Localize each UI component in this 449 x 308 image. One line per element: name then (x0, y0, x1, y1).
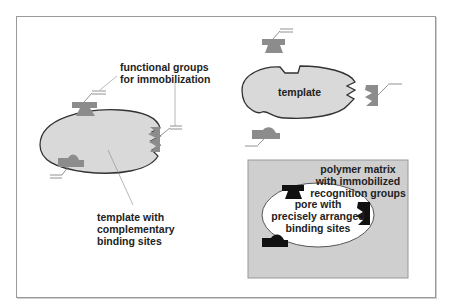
label-line: polymer matrix (308, 163, 408, 175)
label-line: template with (97, 211, 175, 223)
label-line: for immobilization (120, 73, 210, 85)
label-line: with immobilized (308, 175, 408, 187)
label-line: functional groups (120, 61, 210, 73)
diagram-canvas (0, 0, 449, 308)
label-polymer-matrix: polymer matrix with immobilized recognit… (308, 163, 408, 199)
label-template-with-sites: template with complementary binding site… (97, 211, 175, 247)
label-line: pore with (262, 198, 374, 210)
label-line: binding sites (97, 235, 175, 247)
label-functional-groups: functional groups for immobilization (120, 61, 210, 85)
label-template: template (278, 86, 321, 98)
label-line: complementary (97, 223, 175, 235)
template-with-groups (40, 76, 182, 205)
label-line: precisely arranged (262, 210, 374, 222)
label-pore: pore with precisely arranged binding sit… (262, 198, 374, 234)
template-detached-groups (242, 29, 402, 146)
label-line: binding sites (262, 222, 374, 234)
